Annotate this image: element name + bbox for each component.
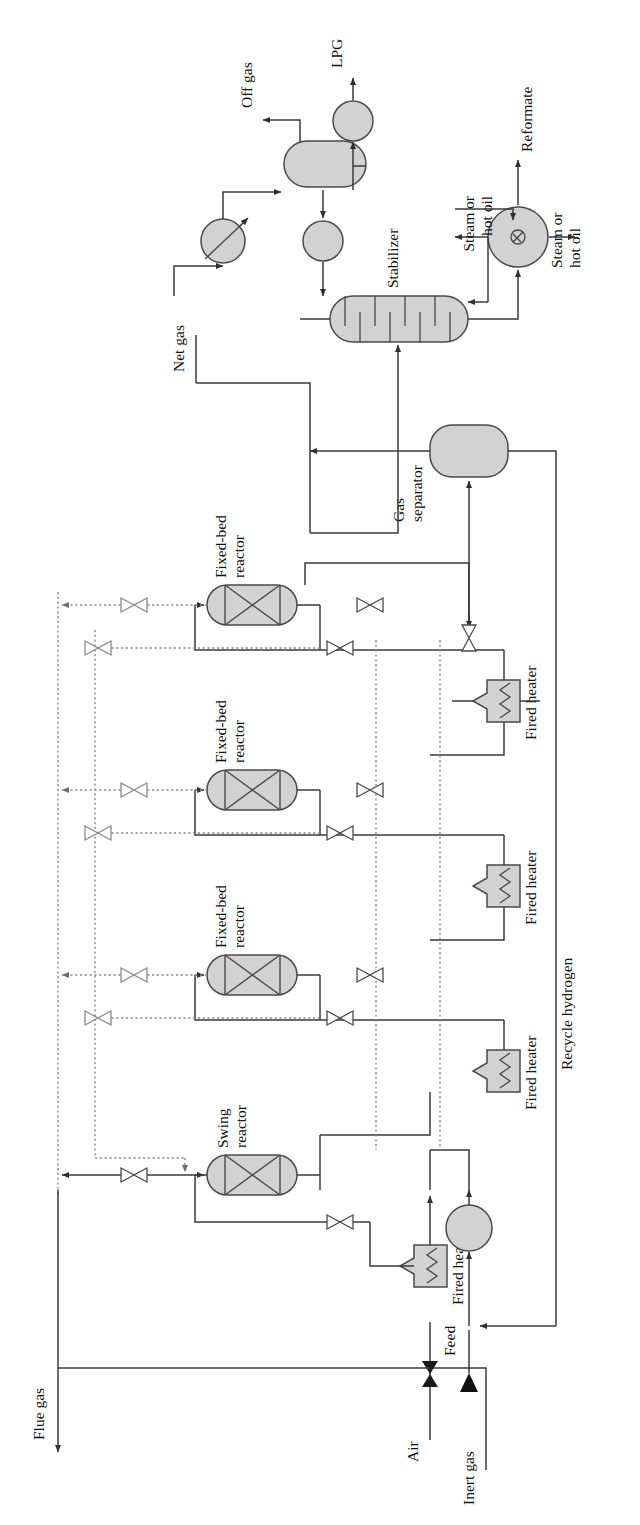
- stream-label-net-gas: Net gas: [170, 325, 187, 372]
- stream-label-recycle-hydrogen: Recycle hydrogen: [558, 957, 575, 1070]
- stream-label-reformate: Reformate: [518, 86, 535, 152]
- stream-label-steam-hot-oil-out-2: hot oil: [566, 228, 583, 268]
- process-flow-diagram: .pl{stroke:#3a3a3a;stroke-width:1.5;fill…: [0, 0, 640, 1525]
- stream-label-steam-hot-oil-in-1: Steam or: [460, 195, 477, 251]
- equipment-label-swing-2: reactor: [232, 1104, 249, 1148]
- stream-label-steam-hot-oil-in-2: hot oil: [478, 196, 495, 236]
- equipment-label-reactor3-1: Fixed-bed: [212, 515, 229, 578]
- equipment-label-reactor2-2: reactor: [230, 719, 247, 763]
- stream-label-steam-hot-oil-out-1: Steam or: [548, 212, 565, 268]
- feed-pump: [446, 1205, 492, 1251]
- reboiler: [488, 207, 548, 267]
- lpg-pump: [333, 101, 373, 141]
- stream-label-air: Air: [404, 1441, 421, 1463]
- stream-label-off-gas: Off gas: [238, 62, 255, 108]
- equipment-label-fired-heater-2: Fired heater: [522, 850, 539, 925]
- equipment-label-reactor1-2: reactor: [230, 904, 247, 948]
- equipment-label-fired-heater-1: Fired heater: [522, 1035, 539, 1110]
- equipment-label-gas-separator-2: separator: [408, 464, 425, 522]
- stream-label-flue-gas: Flue gas: [30, 1388, 47, 1440]
- equipment-label-fired-heater-3: Fired heater: [522, 665, 539, 740]
- equipment-label-reactor2-1: Fixed-bed: [212, 700, 229, 763]
- stream-label-feed: Feed: [441, 1326, 458, 1356]
- equipment-label-reactor3-2: reactor: [230, 534, 247, 578]
- equipment-label-swing-1: Swing: [214, 1108, 231, 1148]
- stream-label-inert-gas: Inert gas: [460, 1451, 477, 1505]
- equipment-label-stabilizer: Stabilizer: [384, 228, 401, 288]
- equipment-label-reactor1-1: Fixed-bed: [212, 885, 229, 948]
- stream-label-lpg: LPG: [328, 39, 345, 68]
- reflux-pump: [303, 221, 343, 261]
